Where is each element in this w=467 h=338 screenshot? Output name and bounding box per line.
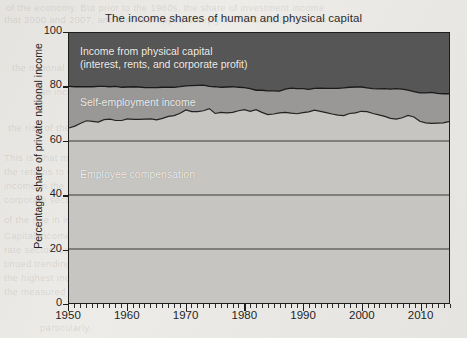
x-tick-mark-1985 (274, 304, 275, 308)
x-tick-mark-2012 (432, 304, 433, 308)
x-tick-mark-1961 (133, 304, 134, 308)
band-label-capital-line2: (interest, rents, and corporate profit) (80, 58, 248, 71)
chart-title: The income shares of human and physical … (0, 12, 467, 24)
x-tick-mark-1954 (92, 304, 93, 308)
y-axis-label: Percentage share of private national inc… (32, 16, 44, 276)
y-tick-label-0: 0 (26, 296, 62, 308)
x-tick-mark-1958 (115, 304, 116, 308)
x-tick-mark-2003 (379, 304, 380, 308)
x-tick-mark-1986 (280, 304, 281, 308)
x-tick-label-2000: 2000 (340, 309, 384, 321)
x-tick-mark-1997 (344, 304, 345, 308)
x-tick-mark-1963 (144, 304, 145, 308)
x-tick-mark-1987 (285, 304, 286, 308)
area-employee-compensation (69, 109, 449, 303)
x-tick-mark-1996 (338, 304, 339, 308)
y-tick-label-80: 80 (26, 78, 62, 90)
x-tick-mark-1952 (80, 304, 81, 308)
x-tick-mark-2013 (438, 304, 439, 308)
x-tick-mark-1957 (109, 304, 110, 308)
x-tick-mark-2006 (397, 304, 398, 308)
x-tick-mark-1992 (315, 304, 316, 308)
x-tick-mark-1959 (121, 304, 122, 308)
x-tick-mark-1975 (215, 304, 216, 308)
x-tick-mark-1999 (356, 304, 357, 308)
x-tick-mark-2008 (409, 304, 410, 308)
x-tick-mark-1953 (86, 304, 87, 308)
band-label-capital-line1: Income from physical capital (80, 45, 212, 58)
x-tick-mark-1973 (203, 304, 204, 308)
x-tick-mark-1951 (74, 304, 75, 308)
x-tick-mark-1981 (250, 304, 251, 308)
x-tick-mark-1972 (197, 304, 198, 308)
y-tick-label-60: 60 (26, 133, 62, 145)
x-tick-mark-1964 (150, 304, 151, 308)
band-label-employee: Employee compensation (80, 168, 195, 181)
x-tick-mark-1962 (139, 304, 140, 308)
y-tick-label-40: 40 (26, 187, 62, 199)
x-tick-mark-1988 (291, 304, 292, 308)
x-tick-mark-1969 (180, 304, 181, 308)
x-tick-mark-1982 (256, 304, 257, 308)
x-tick-mark-1974 (209, 304, 210, 308)
x-tick-mark-1977 (227, 304, 228, 308)
y-tick-label-100: 100 (26, 24, 62, 36)
x-tick-mark-1976 (221, 304, 222, 308)
x-tick-mark-2004 (385, 304, 386, 308)
x-tick-label-1980: 1980 (222, 309, 266, 321)
x-tick-mark-2011 (426, 304, 427, 308)
x-tick-mark-2015 (450, 304, 451, 308)
x-tick-mark-1983 (262, 304, 263, 308)
x-tick-mark-1994 (327, 304, 328, 308)
x-tick-mark-2001 (368, 304, 369, 308)
x-tick-mark-1979 (238, 304, 239, 308)
x-tick-mark-1991 (309, 304, 310, 308)
x-tick-mark-2002 (374, 304, 375, 308)
x-tick-mark-2007 (403, 304, 404, 308)
x-tick-mark-1971 (191, 304, 192, 308)
x-tick-mark-1984 (268, 304, 269, 308)
x-tick-mark-1968 (174, 304, 175, 308)
x-tick-mark-1995 (332, 304, 333, 308)
x-tick-mark-1978 (233, 304, 234, 308)
x-tick-mark-2014 (444, 304, 445, 308)
x-tick-mark-1998 (350, 304, 351, 308)
x-tick-mark-1989 (297, 304, 298, 308)
x-tick-mark-1967 (168, 304, 169, 308)
x-tick-label-1950: 1950 (46, 309, 90, 321)
band-label-self-employment: Self-employment income (80, 96, 196, 109)
x-tick-mark-1955 (97, 304, 98, 308)
x-tick-label-2010: 2010 (399, 309, 443, 321)
x-tick-mark-1956 (103, 304, 104, 308)
x-tick-mark-2005 (391, 304, 392, 308)
x-tick-label-1960: 1960 (105, 309, 149, 321)
x-tick-label-1990: 1990 (281, 309, 325, 321)
x-tick-mark-1993 (321, 304, 322, 308)
x-tick-label-1970: 1970 (164, 309, 208, 321)
x-tick-mark-1965 (156, 304, 157, 308)
x-tick-mark-2009 (415, 304, 416, 308)
x-tick-mark-1966 (162, 304, 163, 308)
y-tick-label-20: 20 (26, 242, 62, 254)
